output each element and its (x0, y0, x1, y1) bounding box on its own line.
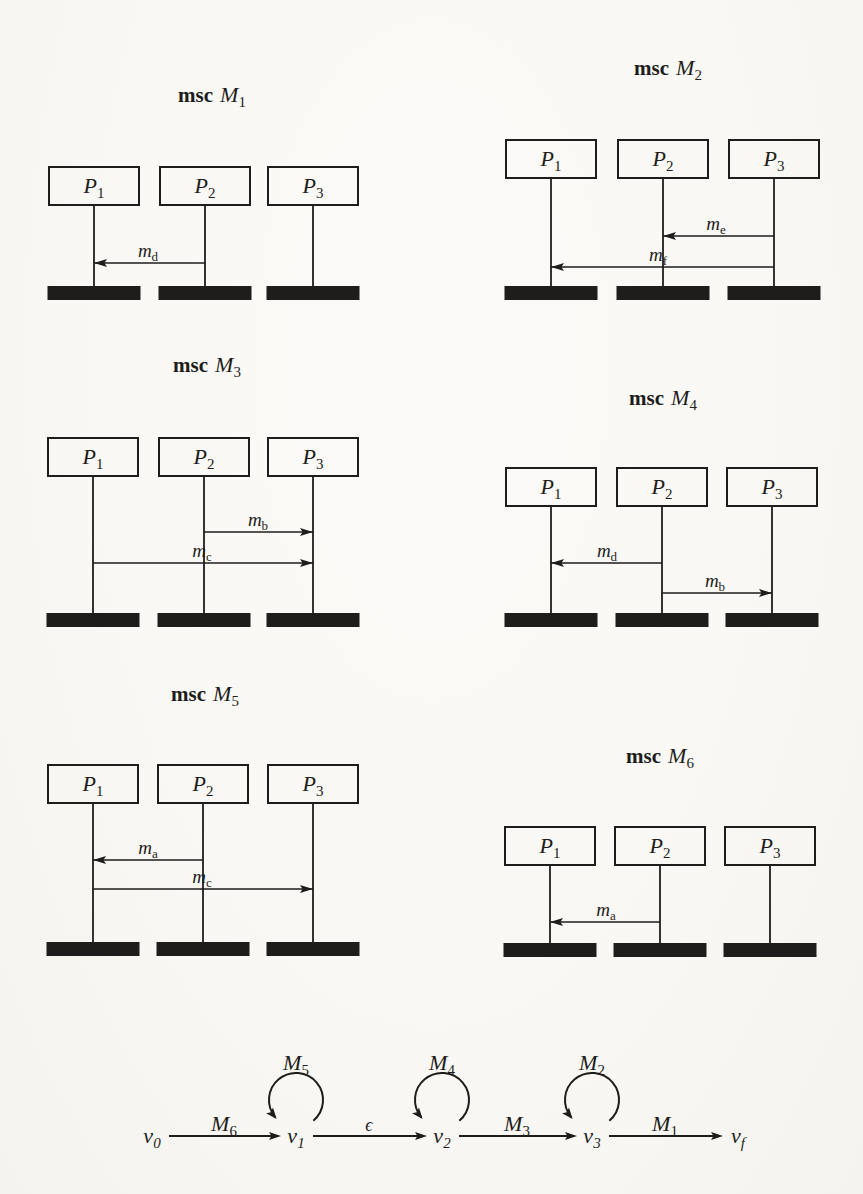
automaton-graph: v0v1v2v3vfM6ϵM3M1M5M4M2 (143, 1050, 746, 1151)
lifeline-end-bar (505, 613, 598, 627)
lifeline-end-bar (158, 613, 251, 627)
process-label: P1 (82, 444, 104, 472)
self-loop-label: M5 (282, 1050, 309, 1078)
self-loop-arc (269, 1073, 323, 1121)
transition-label: ϵ (365, 1115, 373, 1135)
state-label: vf (731, 1123, 747, 1151)
msc-panel-m1: mscM1P1P2P3md (48, 82, 360, 300)
self-loop-arrowhead (266, 1108, 280, 1122)
msc-panel-m6: mscM6P1P2P3ma (504, 743, 817, 957)
transition-label: M3 (503, 1111, 530, 1139)
lifeline-end-bar (726, 613, 819, 627)
self-loop-label: M4 (428, 1050, 455, 1078)
message-label: mc (192, 866, 212, 890)
message-label: mb (248, 509, 268, 533)
lifeline-end-bar (616, 613, 709, 627)
process-label: P3 (302, 771, 324, 799)
process-label: P3 (759, 833, 781, 861)
process-label: P2 (652, 146, 674, 174)
process-label: P1 (540, 146, 562, 174)
lifeline-end-bar (504, 943, 597, 957)
state-label: v0 (143, 1123, 161, 1151)
lifeline-end-bar (157, 942, 250, 956)
process-label: P1 (83, 173, 105, 201)
lifeline-end-bar (614, 943, 707, 957)
lifeline-end-bar (267, 286, 360, 300)
self-loop-arrowhead (412, 1108, 426, 1122)
msc-panel-m5: mscM5P1P2P3mamc (47, 681, 360, 956)
msc-title: mscM4 (629, 385, 697, 413)
lifeline-end-bar (159, 286, 252, 300)
process-label: P3 (302, 173, 324, 201)
message-label: md (597, 540, 618, 564)
process-label: P3 (763, 146, 785, 174)
state-label: v2 (433, 1123, 451, 1151)
lifeline-end-bar (505, 286, 598, 300)
lifeline-end-bar (47, 613, 140, 627)
message-label: ma (596, 899, 616, 923)
process-label: P3 (761, 474, 783, 502)
process-label: P1 (540, 474, 562, 502)
self-loop-arc (565, 1073, 619, 1121)
lifeline-end-bar (617, 286, 710, 300)
msc-title: mscM1 (178, 82, 246, 110)
transition-label: M1 (651, 1111, 678, 1139)
process-label: P2 (649, 833, 671, 861)
msc-panel-m4: mscM4P1P2P3mdmb (505, 385, 819, 627)
msc-panel-m3: mscM3P1P2P3mbmc (47, 352, 360, 627)
process-label: P2 (192, 771, 214, 799)
message-label: mb (705, 570, 725, 594)
self-loop-label: M2 (578, 1050, 605, 1078)
self-loop-arc (415, 1073, 469, 1121)
lifeline-end-bar (47, 942, 140, 956)
lifeline-end-bar (267, 942, 360, 956)
lifeline-end-bar (267, 613, 360, 627)
state-label: v3 (583, 1123, 600, 1151)
message-label: md (138, 240, 159, 264)
message-label: ma (138, 837, 158, 861)
process-label: P1 (539, 833, 561, 861)
message-label: mf (649, 244, 668, 268)
process-label: P2 (193, 444, 215, 472)
msc-panel-m2: mscM2P1P2P3memf (505, 55, 821, 300)
transition-label: M6 (210, 1111, 237, 1139)
lifeline-end-bar (728, 286, 821, 300)
msc-title: mscM2 (634, 55, 702, 83)
state-label: v1 (287, 1123, 304, 1151)
msc-title: mscM6 (626, 743, 694, 771)
process-label: P2 (194, 173, 216, 201)
lifeline-end-bar (724, 943, 817, 957)
figure-page: mscM1P1P2P3mdmscM2P1P2P3memfmscM3P1P2P3m… (0, 0, 863, 1194)
msc-title: mscM3 (173, 352, 241, 380)
message-label: me (706, 213, 726, 237)
process-label: P3 (302, 444, 324, 472)
self-loop-arrowhead (562, 1108, 576, 1122)
msc-figure-svg: mscM1P1P2P3mdmscM2P1P2P3memfmscM3P1P2P3m… (0, 0, 863, 1194)
lifeline-end-bar (48, 286, 141, 300)
process-label: P1 (82, 771, 104, 799)
process-label: P2 (651, 474, 673, 502)
message-label: mc (192, 540, 212, 564)
msc-title: mscM5 (171, 681, 239, 709)
